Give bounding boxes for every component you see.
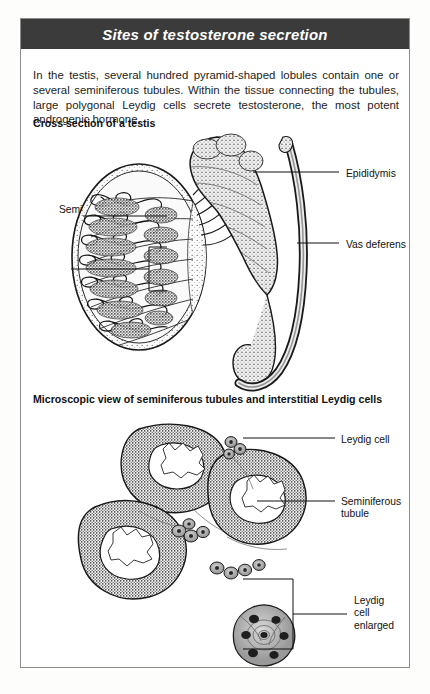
label-seminiferous-tubule: Seminiferous tubule [341,496,411,521]
microscopic-view-illustration [78,424,347,666]
label-vas-deferens: Vas deferens [346,239,406,251]
label-leydig-cell-enlarged-line3: enlarged [354,620,414,632]
label-seminiferous-tubule-line1: Seminiferous [341,496,411,508]
label-epididymis: Epididymis [346,168,396,180]
section-heading-cross-section: Cross section of a testis [33,117,155,129]
label-seminiferous-tubule-line2: tubule [341,508,411,520]
label-leydig-cell-enlarged-line1: Leydig [354,595,414,607]
bracket-leydig-enlarged-arms [243,579,293,649]
figure-card: Sites of testosterone secretion In the t… [20,18,410,668]
label-lobule: Lobule [21,264,106,276]
figure-title-bar: Sites of testosterone secretion [21,19,409,49]
page-title: Sites of testosterone secretion [102,26,327,43]
label-leydig-cell-enlarged: Leydig cell enlarged [354,595,414,632]
label-seminiferous-tubules: Seminiferous tubules [21,204,119,229]
label-leydig-cell-enlarged-line2: cell [354,607,414,619]
bracket-lobule-arms [149,247,167,291]
label-seminiferous-tubules-line1: Seminiferous [21,204,119,216]
section-heading-microscopic-view: Microscopic view of seminiferous tubules… [33,393,382,405]
testis-cross-section-illustration [71,134,339,387]
label-seminiferous-tubules-line2: tubules [21,216,119,228]
label-leydig-cell: Leydig cell [341,434,390,446]
